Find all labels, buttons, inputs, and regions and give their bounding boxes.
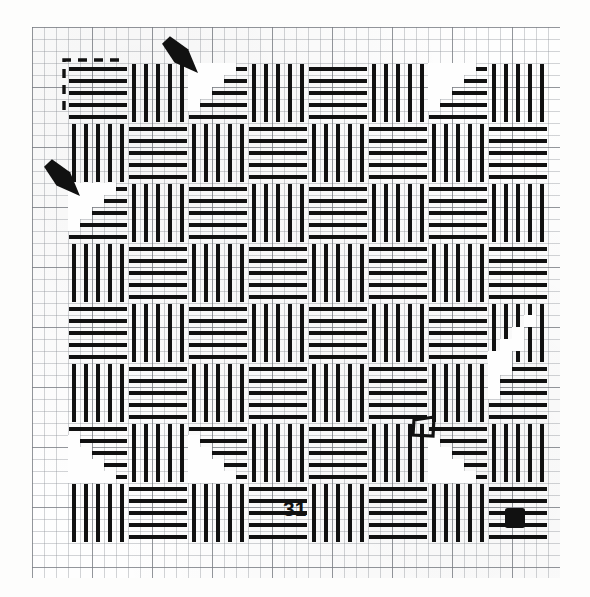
pattern-cut bbox=[428, 63, 476, 75]
arrow-top-icon bbox=[162, 36, 198, 73]
pattern-cut bbox=[428, 75, 464, 87]
pattern-cut bbox=[428, 447, 452, 459]
pattern-cut bbox=[500, 339, 512, 375]
weave-pattern bbox=[68, 63, 547, 542]
pattern-cut bbox=[428, 471, 476, 483]
pattern-cut bbox=[188, 87, 212, 99]
pattern-cut bbox=[512, 327, 524, 351]
figure-page: 31 bbox=[0, 0, 590, 597]
pattern-cut bbox=[68, 447, 92, 459]
pattern-cut bbox=[188, 435, 200, 447]
pattern-cut bbox=[428, 87, 452, 99]
pattern-cut bbox=[68, 435, 80, 447]
pattern-cut bbox=[68, 207, 92, 219]
pattern-cut bbox=[68, 195, 104, 207]
pattern-cut bbox=[188, 75, 224, 87]
draft-number-label: 31 bbox=[283, 498, 306, 519]
filled-square-marker bbox=[505, 508, 525, 528]
pattern-cut bbox=[428, 459, 464, 471]
pattern-cut bbox=[188, 99, 200, 111]
pattern-cut bbox=[188, 471, 236, 483]
pattern-cut bbox=[188, 459, 224, 471]
pattern-cut bbox=[68, 459, 104, 471]
pattern-cut bbox=[524, 315, 536, 327]
pattern-cut bbox=[428, 99, 440, 111]
pattern-cut bbox=[68, 471, 116, 483]
pattern-cut bbox=[488, 351, 500, 399]
pattern-cut bbox=[188, 447, 212, 459]
pattern-cut bbox=[68, 219, 80, 231]
